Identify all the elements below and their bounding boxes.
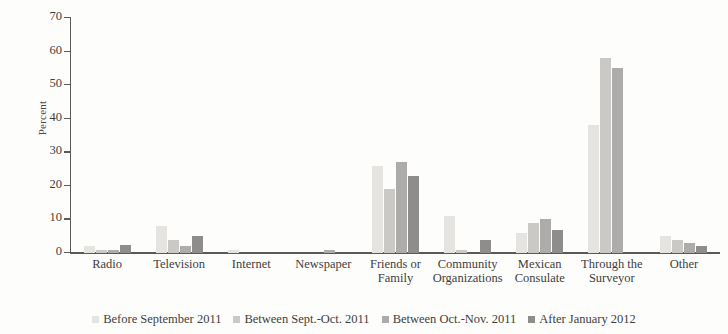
y-tick-mark <box>64 17 71 18</box>
bar <box>84 246 95 253</box>
bar-group <box>576 17 648 253</box>
bar <box>456 250 467 253</box>
legend-label: Before September 2011 <box>103 312 221 327</box>
bar <box>516 233 527 253</box>
bar-group <box>215 17 287 253</box>
bar-chart-figure: Percent 010203040506070 RadioTelevisionI… <box>0 0 728 334</box>
bar <box>588 125 599 253</box>
y-tick-label: 10 <box>36 211 62 224</box>
y-tick-label: 50 <box>36 77 62 90</box>
bar <box>540 219 551 253</box>
bar <box>444 216 455 253</box>
bar <box>180 246 191 253</box>
bar-group <box>287 17 359 253</box>
x-category-label: Friends orFamily <box>359 258 431 285</box>
x-category-label: Other <box>648 258 720 272</box>
x-category-label: MexicanConsulate <box>504 258 576 285</box>
bar <box>696 246 707 253</box>
y-tick-mark <box>64 84 71 85</box>
bar-group <box>359 17 431 253</box>
y-tick-label: 70 <box>36 10 62 23</box>
legend-item: Before September 2011 <box>92 312 221 327</box>
legend-swatch-icon <box>528 316 535 323</box>
bar <box>600 58 611 253</box>
bar <box>324 250 335 253</box>
legend-label: Between Sept.-Oct. 2011 <box>244 312 369 327</box>
bar <box>108 250 119 253</box>
legend-swatch-icon <box>92 316 99 323</box>
y-tick-mark <box>64 51 71 52</box>
bar <box>552 230 563 254</box>
y-tick-label: 20 <box>36 178 62 191</box>
x-category-label: CommunityOrganizations <box>432 258 504 285</box>
y-tick-mark <box>64 218 71 219</box>
bar <box>120 245 131 253</box>
plot-area: Percent 010203040506070 RadioTelevisionI… <box>0 0 728 300</box>
legend-label: Between Oct.-Nov. 2011 <box>393 312 517 327</box>
legend-item: Between Sept.-Oct. 2011 <box>233 312 369 327</box>
bar <box>480 240 491 253</box>
legend-item: After January 2012 <box>528 312 636 327</box>
bar <box>228 250 239 253</box>
bar <box>384 189 395 253</box>
y-tick-mark <box>64 252 71 253</box>
x-category-label: Radio <box>71 258 143 272</box>
bar <box>528 223 539 253</box>
bar <box>396 162 407 253</box>
bars-container <box>71 17 720 253</box>
bar <box>660 236 671 253</box>
bar-group <box>648 17 720 253</box>
y-tick-mark <box>64 118 71 119</box>
bar-group <box>71 17 143 253</box>
x-category-label: Through theSurveyor <box>576 258 648 285</box>
y-tick-label: 0 <box>36 245 62 258</box>
bar <box>408 176 419 253</box>
x-category-label: Television <box>143 258 215 272</box>
legend-swatch-icon <box>233 316 240 323</box>
bar <box>372 166 383 253</box>
bar <box>156 226 167 253</box>
bar <box>684 243 695 253</box>
bar <box>672 240 683 253</box>
y-tick-label: 30 <box>36 144 62 157</box>
legend-label: After January 2012 <box>539 312 636 327</box>
bar-group <box>143 17 215 253</box>
y-tick-label: 40 <box>36 111 62 124</box>
x-category-label: Internet <box>215 258 287 272</box>
bar <box>612 68 623 253</box>
chart-legend: Before September 2011Between Sept.-Oct. … <box>0 306 728 332</box>
x-category-label: Newspaper <box>287 258 359 272</box>
bar-group <box>504 17 576 253</box>
bar-group <box>432 17 504 253</box>
bar <box>192 236 203 253</box>
y-tick-mark <box>64 151 71 152</box>
legend-item: Between Oct.-Nov. 2011 <box>382 312 517 327</box>
bar <box>168 240 179 253</box>
bar <box>96 250 107 253</box>
y-axis-tick-labels: 010203040506070 <box>36 0 62 300</box>
y-tick-mark <box>64 185 71 186</box>
y-tick-label: 60 <box>36 44 62 57</box>
legend-swatch-icon <box>382 316 389 323</box>
